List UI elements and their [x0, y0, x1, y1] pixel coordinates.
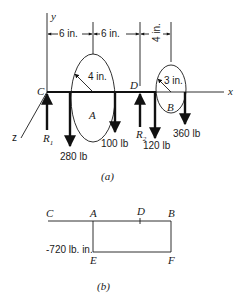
- radius-label-a: 4 in.: [88, 71, 107, 82]
- pulley-label-b: B: [167, 101, 174, 113]
- dimension-label-ad: 6 in.: [101, 28, 120, 39]
- force-100-label: 100 lb: [101, 138, 129, 149]
- dimension-label-ca: 6 in.: [59, 28, 78, 39]
- radius-label-b: 3 in.: [164, 75, 183, 86]
- z-axis-label: z: [12, 132, 17, 143]
- figure-a-caption: (a): [101, 170, 114, 183]
- point-label-d-b: D: [136, 205, 145, 217]
- figure-b-caption: (b): [97, 280, 110, 293]
- point-label-d: D: [129, 79, 138, 91]
- force-360-label: 360 lb: [173, 128, 201, 139]
- dimension-label-db: 4 in.: [151, 23, 162, 42]
- point-label-b-b: B: [168, 207, 175, 219]
- moment-value-label: -720 lb. in.: [46, 244, 93, 255]
- point-label-f-b: F: [167, 254, 175, 266]
- point-label-a-b: A: [89, 207, 97, 219]
- pulley-a: [71, 54, 115, 142]
- figure-b: C A D B E F -720 lb. in. (b): [46, 205, 175, 293]
- force-120-label: 120 lb: [143, 140, 171, 151]
- point-label-c: C: [37, 85, 45, 97]
- shaft-free-body-diagram: y 6 in. 6 in. 4 in. z x 4 in. A 3 in.: [0, 0, 246, 296]
- point-label-c-b: C: [46, 207, 54, 219]
- y-axis-label: y: [50, 10, 56, 22]
- force-280-label: 280 lb: [60, 151, 88, 162]
- point-label-e-b: E: [89, 254, 97, 266]
- figure-a: y 6 in. 6 in. 4 in. z x 4 in. A 3 in.: [12, 10, 233, 183]
- pulley-label-a: A: [88, 109, 96, 121]
- force-r1-label: R1: [42, 132, 53, 147]
- x-axis-label: x: [227, 85, 233, 97]
